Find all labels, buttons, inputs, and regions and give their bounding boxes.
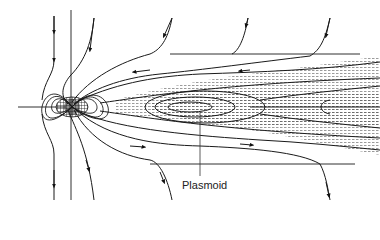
plasma-sheet <box>115 56 380 155</box>
plasmoid-label: Plasmoid <box>182 179 227 191</box>
